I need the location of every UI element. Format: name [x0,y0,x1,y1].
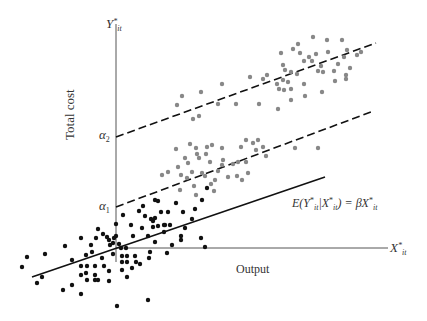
black-points [20,186,209,308]
chart-canvas [0,0,427,321]
alpha2-symbol: α [99,127,106,142]
lower-gray-points [160,138,320,197]
y-axis-symbol-sub: it [117,24,121,33]
alpha1-subscript: 1 [106,206,110,215]
alpha2-label: α2 [99,127,110,144]
x-axis-symbol-main: X [390,240,398,255]
pooled-regression-line [32,177,325,277]
x-axis-symbol-sub: it [402,248,406,257]
regression-equation: E(Y*it|X*it) = βX*it [292,196,377,212]
alpha2-subscript: 2 [106,135,110,144]
x-axis-symbol: X*it [390,240,406,257]
upper-gray-points [175,35,363,121]
eq-sub-3: it [373,203,377,212]
alpha1-symbol: α [99,198,106,213]
eq-part-3: ) = βX [338,196,369,210]
alpha1-label: α1 [99,198,110,215]
group1-dashed-line [116,112,371,207]
eq-part-2: |X [318,196,329,210]
eq-part-1: E(Y [292,196,310,210]
y-axis-symbol: Y*it [106,16,122,33]
y-axis-label: Total cost [62,89,78,140]
x-axis-label: Output [236,262,269,277]
group2-dashed-line [116,43,376,137]
